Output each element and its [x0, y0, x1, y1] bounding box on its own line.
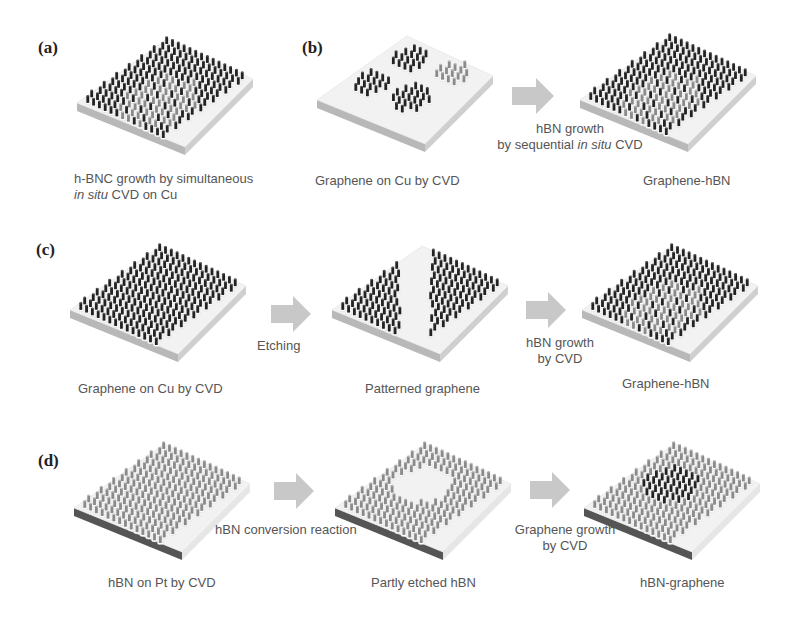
- italic-in-situ: in situ: [74, 187, 108, 202]
- conversion-arrow-icon: [274, 473, 314, 509]
- caption-rest: CVD on Cu: [108, 187, 177, 202]
- label-prefix: by sequential: [497, 137, 577, 152]
- substrate-partly-etched-hbn: [333, 440, 513, 570]
- substrate-hbnc: [75, 35, 255, 160]
- caption-hbn-on-pt: hBN on Pt by CVD: [108, 575, 216, 591]
- substrate-hbn-on-pt: [72, 440, 252, 570]
- substrate-graphene-on-cu-c: [68, 242, 248, 372]
- caption-line-1: h-BNC growth by simultaneous: [74, 171, 253, 187]
- substrate-patterned-graphene: [330, 242, 510, 372]
- caption-graphene-hbn-b: Graphene-hBN: [643, 173, 730, 189]
- substrate-graphene-islands: [315, 32, 495, 162]
- caption-line-2: in situ CVD on Cu: [74, 187, 253, 203]
- panel-label-d: (d): [38, 451, 59, 471]
- caption-graphene-on-cu-c: Graphene on Cu by CVD: [78, 381, 223, 397]
- caption-graphene-hbn-c: Graphene-hBN: [622, 376, 709, 392]
- panel-label-a: (a): [38, 38, 58, 58]
- panel-label-c: (c): [36, 240, 55, 260]
- substrate-hbn-graphene: [582, 440, 762, 570]
- etching-arrow-icon: [271, 296, 311, 332]
- process-arrow-icon: [512, 78, 554, 114]
- arrow-label-etching: Etching: [257, 338, 300, 354]
- caption-hbnc-growth: h-BNC growth by simultaneous in situ CVD…: [74, 171, 253, 203]
- caption-patterned-graphene: Patterned graphene: [365, 381, 480, 397]
- caption-partly-etched-hbn: Partly etched hBN: [371, 575, 476, 591]
- hbn-growth-arrow-icon: [526, 292, 566, 328]
- graphene-growth-arrow-icon: [530, 472, 570, 508]
- substrate-graphene-hbn-b: [578, 32, 758, 162]
- substrate-graphene-hbn-c: [580, 242, 760, 372]
- caption-graphene-on-cu-b: Graphene on Cu by CVD: [315, 173, 460, 189]
- caption-hbn-graphene: hBN-graphene: [640, 575, 725, 591]
